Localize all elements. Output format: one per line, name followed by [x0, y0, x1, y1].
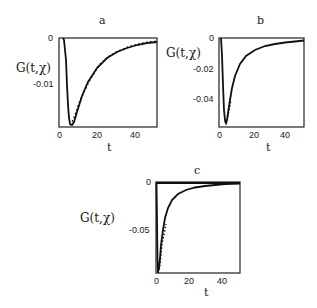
panel-b-plot — [160, 0, 317, 160]
panel-c-plot — [80, 150, 260, 308]
panel-a: a G(t,χ) 0 -0.01 0 20 40 t — [0, 0, 160, 160]
panel-b: b G(t,χ) 0 -0.02 -0.04 0 20 40 t — [160, 0, 317, 160]
panel-a-plot — [0, 0, 160, 160]
panel-c: c G(t,χ) 0 -0.05 0 20 40 t — [80, 150, 260, 308]
